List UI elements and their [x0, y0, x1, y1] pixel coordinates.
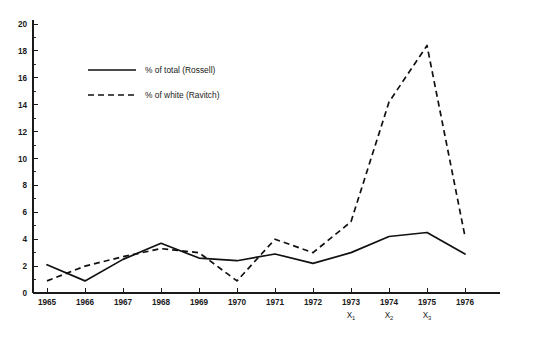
x-tick-label: 1969 — [190, 298, 209, 307]
chart-container: 02468101214161820 1965196619671968196919… — [0, 0, 538, 341]
y-tick-label: 8 — [22, 181, 27, 190]
x-tick-label: 1968 — [152, 298, 171, 307]
y-tick-label: 16 — [18, 74, 28, 83]
x-tick-label: 1965 — [38, 298, 57, 307]
x-tick-label: 1975 — [418, 298, 437, 307]
x-tick-label: 1976 — [456, 298, 475, 307]
x-tick-label: 1966 — [76, 298, 95, 307]
y-tick-label: 2 — [22, 262, 27, 271]
series-line-2 — [47, 46, 465, 281]
x-tick-label: 1971 — [266, 298, 285, 307]
x-annotation-x3: X3 — [423, 311, 432, 321]
y-tick-label: 12 — [18, 128, 28, 137]
legend-label-2: % of white (Ravitch) — [145, 90, 220, 100]
y-tick-label: 20 — [18, 20, 28, 29]
y-tick-label: 0 — [22, 289, 27, 298]
x-tick-label: 1973 — [342, 298, 361, 307]
y-tick-label: 4 — [22, 235, 27, 244]
line-chart: 02468101214161820 1965196619671968196919… — [0, 0, 538, 341]
y-tick-label: 6 — [22, 208, 27, 217]
x-tick-label: 1974 — [380, 298, 399, 307]
y-tick-label: 18 — [18, 47, 28, 56]
x-annotation-x1: X1 — [347, 311, 356, 321]
y-tick-label: 14 — [18, 101, 28, 110]
x-annotation-x2: X2 — [385, 311, 394, 321]
y-axis: 02468101214161820 — [18, 20, 38, 298]
x-axis: 1965196619671968196919701971197219731974… — [33, 288, 500, 321]
legend-label-1: % of total (Rossell) — [145, 65, 215, 75]
series-line-1 — [47, 232, 465, 280]
x-tick-label: 1967 — [114, 298, 133, 307]
x-tick-label: 1972 — [304, 298, 323, 307]
x-tick-label: 1970 — [228, 298, 247, 307]
data-series-group — [47, 46, 465, 281]
y-tick-label: 10 — [18, 155, 28, 164]
chart-legend: % of total (Rossell)% of white (Ravitch) — [88, 65, 220, 100]
